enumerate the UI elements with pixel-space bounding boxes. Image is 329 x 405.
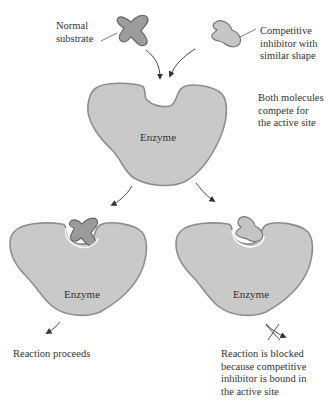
inhibitor-arrow (170, 49, 195, 76)
inhibitor-leader-line (240, 29, 256, 37)
compete-note-label: Both molecules compete for the active si… (258, 92, 324, 130)
reaction-proceeds-arrow (47, 322, 60, 333)
competitive-inhibition-diagram: Normal substrate Competitive inhibitor w… (0, 0, 329, 405)
normal-substrate-molecule (117, 15, 148, 45)
normal-substrate-label: Normal substrate (56, 20, 93, 45)
bound-substrate (69, 218, 97, 246)
top-enzyme-label: Enzyme (140, 131, 176, 143)
right-enzyme-label: Enzyme (233, 288, 269, 300)
reaction-proceeds-label: Reaction proceeds (13, 348, 90, 361)
reaction-blocked-label: Reaction is blocked because competitive … (221, 348, 306, 398)
competitive-inhibitor-label: Competitive inhibitor with similar shape (260, 25, 317, 63)
substrate-arrow (146, 50, 160, 78)
left-enzyme-shape (10, 218, 146, 315)
competitive-inhibitor-molecule (212, 21, 241, 47)
blocked-arrow (266, 324, 285, 340)
right-enzyme-shape (176, 217, 312, 316)
bound-inhibitor (236, 217, 263, 242)
substrate-leader-line (101, 33, 117, 41)
arrow-to-right-outcome (196, 183, 214, 201)
arrow-to-left-outcome (112, 186, 132, 205)
left-enzyme-label: Enzyme (64, 288, 100, 300)
